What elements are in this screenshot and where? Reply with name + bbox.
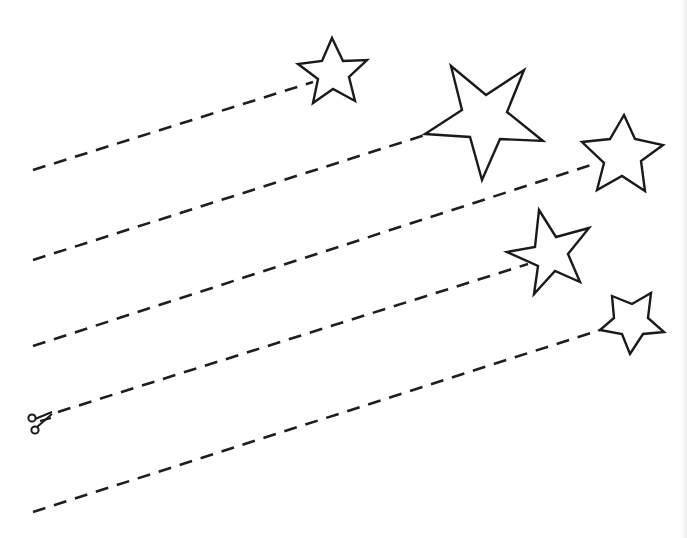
stars: [298, 38, 664, 354]
cut-lines: [33, 82, 600, 512]
cutting-worksheet: [0, 0, 687, 538]
star-icon-5: [600, 293, 664, 354]
scissors-icon: [28, 412, 52, 434]
dashed-cut-line-1: [33, 82, 313, 170]
dashed-cut-line-2: [33, 135, 425, 260]
star-icon-2: [425, 66, 543, 180]
dashed-cut-line-4: [58, 264, 528, 412]
worksheet-drawing: [0, 0, 687, 538]
star-icon-1: [298, 38, 367, 103]
star-icon-4: [507, 210, 589, 294]
dashed-cut-line-5: [33, 330, 600, 512]
star-icon-3: [582, 115, 663, 191]
